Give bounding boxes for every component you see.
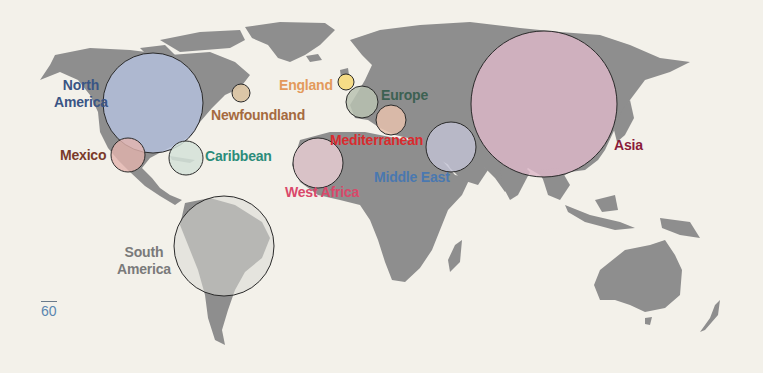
bubble-mediterranean[interactable] [376,105,406,135]
label-west-africa: West Africa [285,184,359,201]
bubble-newfoundland[interactable] [232,84,250,102]
label-north-america-line1: North [54,77,108,94]
label-caribbean: Caribbean [205,148,272,165]
bubble-caribbean[interactable] [169,141,203,175]
bubble-england[interactable] [338,74,354,90]
label-south-america-line2: America [117,261,171,278]
label-asia: Asia [614,137,643,154]
bubble-asia[interactable] [471,31,617,177]
label-newfoundland: Newfoundland [211,107,305,124]
label-europe: Europe [381,87,428,104]
world-map [0,0,763,373]
page-number: 60 [41,301,57,319]
label-mediterranean: Mediterranean [330,132,423,149]
label-north-america: North America [54,77,108,111]
bubble-north-america[interactable] [103,53,203,153]
label-north-america-line2: America [54,94,108,111]
bubble-europe[interactable] [346,86,378,118]
label-south-america-line1: South [117,244,171,261]
label-south-america: South America [117,244,171,278]
label-middle-east: Middle East [374,169,450,186]
bubble-south-america[interactable] [174,196,274,296]
bubble-mexico[interactable] [111,138,145,172]
label-england: England [279,77,333,94]
label-mexico: Mexico [60,147,106,164]
bubble-middle-east[interactable] [426,122,476,172]
